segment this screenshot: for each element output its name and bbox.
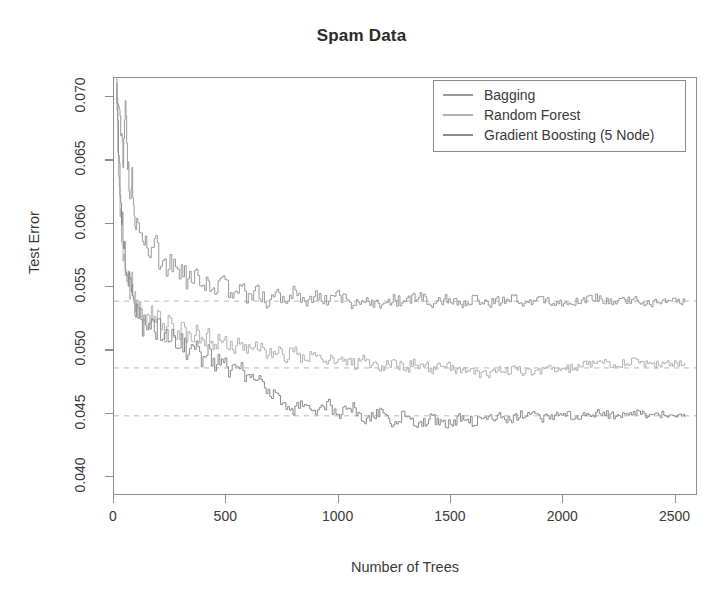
legend: Bagging Random Forest Gradient Boosting … — [433, 80, 686, 152]
x-tick-label: 1000 — [303, 508, 373, 524]
y-tick-mark — [105, 476, 113, 477]
legend-label-random-forest: Random Forest — [484, 107, 580, 123]
y-tick-label: 0.045 — [72, 390, 88, 434]
x-tick-label: 1500 — [415, 508, 485, 524]
y-tick-mark — [105, 159, 113, 160]
y-tick-mark — [105, 223, 113, 224]
legend-label-bagging: Bagging — [484, 87, 535, 103]
y-tick-mark — [105, 286, 113, 287]
y-tick-label: 0.050 — [72, 326, 88, 370]
legend-entry-bagging: Bagging — [443, 85, 535, 105]
legend-swatch-gradient-boosting — [443, 134, 473, 136]
y-tick-label: 0.065 — [72, 136, 88, 180]
y-tick-label: 0.070 — [72, 73, 88, 117]
y-tick-label: 0.060 — [72, 200, 88, 244]
y-tick-mark — [105, 96, 113, 97]
x-tick-label: 500 — [190, 508, 260, 524]
spam-data-figure: Spam Data 05001000150020002500 0.0400.04… — [0, 0, 723, 608]
y-tick-label: 0.055 — [72, 263, 88, 307]
x-tick-mark — [675, 495, 676, 503]
x-tick-mark — [225, 495, 226, 503]
x-tick-mark — [562, 495, 563, 503]
y-axis-title: Test Error — [26, 234, 42, 274]
y-tick-mark — [105, 349, 113, 350]
x-axis-title: Number of Trees — [113, 559, 697, 575]
legend-label-gradient-boosting: Gradient Boosting (5 Node) — [484, 127, 654, 143]
legend-entry-random-forest: Random Forest — [443, 105, 580, 125]
legend-swatch-bagging — [443, 94, 473, 96]
y-tick-label: 0.040 — [72, 453, 88, 497]
x-tick-mark — [338, 495, 339, 503]
x-tick-label: 2500 — [640, 508, 710, 524]
legend-entry-gradient-boosting: Gradient Boosting (5 Node) — [443, 125, 654, 145]
legend-swatch-random-forest — [443, 114, 473, 116]
y-tick-mark — [105, 413, 113, 414]
chart-title: Spam Data — [0, 26, 723, 46]
x-tick-mark — [113, 495, 114, 503]
x-tick-label: 2000 — [527, 508, 597, 524]
x-tick-label: 0 — [78, 508, 148, 524]
x-tick-mark — [450, 495, 451, 503]
